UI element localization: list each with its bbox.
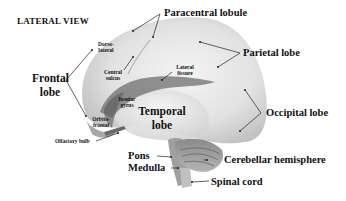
label-pons: Pons [128, 151, 150, 162]
label-lateral-fissure: Lateral fissure [173, 64, 197, 77]
spinal-cord-shape [180, 168, 192, 188]
view-title: LATERAL VIEW [17, 17, 89, 26]
label-frontal-lobe: Frontal lobe [32, 73, 68, 98]
label-temporal-lobe: Temporal lobe [136, 106, 188, 131]
label-occipital-lobe: Occipital lobe [266, 108, 328, 119]
label-medulla: Medulla [128, 163, 165, 174]
label-dorsolateral: Dorso- lateral [94, 41, 118, 54]
label-spinal-cord: Spinal cord [211, 177, 263, 188]
brain-diagram: LATERAL VIEW Paracentral lobule Parietal… [0, 0, 346, 201]
brain-illustration [0, 0, 346, 201]
label-olfactory-bulb: Olfactory bulb [55, 138, 90, 144]
label-insular-gyrus: Insular gyrus [116, 96, 138, 109]
label-orbitofrontal: Orbito- frontal [89, 116, 113, 129]
label-central-sulcus: Central sulcus [101, 69, 125, 82]
label-paracentral-lobule: Paracentral lobule [164, 8, 247, 19]
label-parietal-lobe: Parietal lobe [243, 48, 300, 59]
label-cerebellar-hemisphere: Cerebellar hemisphere [224, 155, 326, 166]
